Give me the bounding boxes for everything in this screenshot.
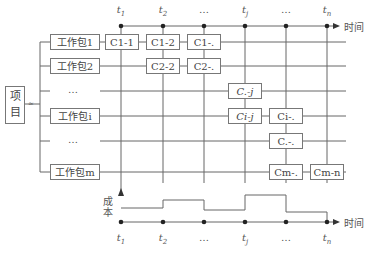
cost-box-c2-2: C2-2 <box>146 58 180 74</box>
tick-base: … <box>199 4 209 15</box>
time-tick-top-4: tj <box>242 4 248 18</box>
work-package-2: 工作包2 <box>50 58 100 74</box>
project-root-node: 项 目 <box>5 86 25 124</box>
cost-box-cm-n: Cm-n <box>310 164 344 180</box>
work-package-i: 工作包i <box>50 108 100 124</box>
cost-box-c1-dot: C1-. <box>187 34 221 50</box>
cost-label-line2: 本 <box>103 207 113 218</box>
cost-box-c1-2: C1-2 <box>146 34 180 50</box>
time-tick-bottom-4: tj <box>242 232 248 246</box>
cost-box-c2-dot: C2-. <box>187 58 221 74</box>
cost-box-c1-1: C1-1 <box>105 34 139 50</box>
time-tick-top-3: … <box>199 4 209 15</box>
time-tick-bottom-5: … <box>281 232 291 243</box>
time-tick-top-2: t2 <box>159 4 168 18</box>
time-tick-top-6: tn <box>323 4 332 18</box>
cost-box-ci-dot: Ci-. <box>269 108 303 124</box>
project-label-line2: 目 <box>6 105 24 121</box>
time-tick-bottom-3: … <box>199 232 209 243</box>
project-label-line1: 项 <box>6 89 24 105</box>
cost-box-cdot-j: C.-j <box>228 83 262 99</box>
tick-base: … <box>281 4 291 15</box>
work-package-ellipsis-2: … <box>68 134 78 145</box>
cost-box-cdot-dot: C.-. <box>269 133 303 149</box>
tick-sub: 1 <box>121 10 125 18</box>
tick-base: … <box>281 232 291 243</box>
cost-label-line1: 成 <box>103 196 113 207</box>
time-tick-bottom-2: t2 <box>159 232 168 246</box>
tick-sub: n <box>327 10 332 18</box>
tick-sub: j <box>246 10 248 18</box>
time-tick-top-1: t1 <box>117 4 126 18</box>
time-axis-label-bottom: 时间 <box>344 215 364 230</box>
work-package-ellipsis-1: … <box>68 84 78 95</box>
tick-sub: n <box>327 238 332 246</box>
time-tick-bottom-6: tn <box>323 232 332 246</box>
tick-base: … <box>199 232 209 243</box>
tick-sub: 1 <box>121 238 125 246</box>
cost-box-ci-j: Ci-j <box>228 108 262 124</box>
cost-box-cm-dot: Cm-. <box>269 164 303 180</box>
time-axis-label-top: 时间 <box>344 19 364 34</box>
time-tick-bottom-1: t1 <box>117 232 126 246</box>
tick-sub: 2 <box>163 238 167 246</box>
time-tick-top-5: … <box>281 4 291 15</box>
work-package-m: 工作包m <box>50 164 100 180</box>
cost-axis-label: 成 本 <box>103 196 113 218</box>
work-package-1: 工作包1 <box>50 34 100 50</box>
svg-text:≈: ≈ <box>28 100 34 108</box>
tick-sub: 2 <box>163 10 167 18</box>
tick-sub: j <box>246 238 248 246</box>
